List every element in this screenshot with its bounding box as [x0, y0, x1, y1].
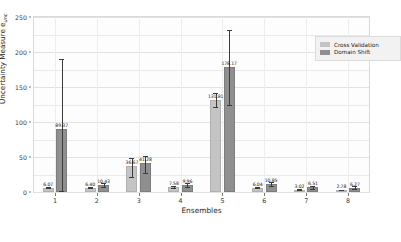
x-axis-tick-mark [222, 193, 223, 196]
error-bar-cap [269, 186, 274, 187]
x-axis-tick-mark [55, 193, 56, 196]
error-bar-cap [339, 190, 344, 191]
error-bar-cap [297, 190, 302, 191]
y-axis-tick-mark [29, 192, 32, 193]
gridline-vertical [181, 17, 182, 192]
bar-value-label: 7.58 [169, 181, 179, 186]
legend-label: Domain Shift [334, 49, 370, 55]
error-bar-cap [227, 30, 232, 31]
gridline-horizontal-minor [34, 70, 369, 71]
y-axis-tick-mark [29, 52, 32, 53]
bar-value-label: 41.28 [139, 157, 152, 162]
bar-value-label: 36.67 [126, 160, 139, 165]
x-axis-ticks: 12345678 [33, 193, 370, 207]
bar-value-label: 6.07 [43, 182, 53, 187]
error-bar-cap [129, 177, 134, 178]
y-axis-tick-label: 0 [23, 189, 27, 196]
gridline-horizontal [34, 122, 369, 123]
error-bar-cap [352, 189, 357, 190]
bar-value-label: 2.78 [336, 184, 346, 189]
gridline-horizontal-minor [34, 175, 369, 176]
x-axis-tick-mark [181, 193, 182, 196]
x-axis-tick-label: 7 [304, 197, 308, 205]
x-axis-tick-mark [348, 193, 349, 196]
x-axis-tick-label: 5 [220, 197, 224, 205]
bar-value-label: 131.81 [208, 94, 223, 99]
gridline-vertical [306, 17, 307, 192]
error-bar-cap [46, 188, 51, 189]
error-bar-cap [310, 189, 315, 190]
error-bar-cap [171, 188, 176, 189]
bar-value-label: 3.02 [295, 184, 305, 189]
x-axis-tick-label: 8 [346, 197, 350, 205]
bar-value-label: 6.40 [85, 182, 95, 187]
bar-value-label: 6.51 [308, 181, 318, 186]
bar-value-label: 9.96 [182, 179, 192, 184]
x-axis-tick-mark [306, 193, 307, 196]
error-bar-cap [101, 187, 106, 188]
legend-swatch-icon [320, 50, 330, 55]
y-axis-tick-label: 200 [15, 49, 27, 56]
x-axis-tick-mark [264, 193, 265, 196]
bar-value-label: 6.27 [350, 182, 360, 187]
x-axis-tick-mark [139, 193, 140, 196]
y-axis-tick-label: 250 [15, 14, 27, 21]
y-axis-tick-mark [29, 87, 32, 88]
bar-value-label: 10.43 [97, 179, 110, 184]
x-axis-title: Ensembles [33, 206, 370, 215]
error-bar [229, 30, 230, 106]
error-bar-cap [227, 105, 232, 106]
error-bar-cap [255, 188, 260, 189]
error-bar-cap [59, 191, 64, 192]
chart-legend: Cross ValidationDomain Shift [315, 36, 401, 61]
bar-value-label: 6.04 [253, 182, 263, 187]
gridline-horizontal [34, 17, 369, 18]
gridline-horizontal [34, 157, 369, 158]
legend-item[interactable]: Domain Shift [320, 49, 396, 55]
y-axis-tick-mark [29, 157, 32, 158]
bar-value-label: 178.17 [221, 61, 236, 66]
bar-cross-validation-5 [210, 100, 221, 192]
error-bar-cap [88, 188, 93, 189]
x-axis-tick-label: 6 [262, 197, 266, 205]
gridline-vertical [264, 17, 265, 192]
y-axis-tick-label: 150 [15, 84, 27, 91]
gridline-horizontal [34, 87, 369, 88]
y-axis-ticks: 050100150200250 [0, 16, 31, 193]
gridline-horizontal-minor [34, 105, 369, 106]
gridline-horizontal-minor [34, 140, 369, 141]
error-bar-cap [59, 59, 64, 60]
legend-label: Cross Validation [334, 42, 379, 48]
gridline-vertical [97, 17, 98, 192]
x-axis-tick-mark [97, 193, 98, 196]
x-axis-tick-label: 2 [95, 197, 99, 205]
x-axis-tick-label: 3 [137, 197, 141, 205]
error-bar-cap [143, 173, 148, 174]
x-axis-tick-label: 4 [179, 197, 183, 205]
plot-area: 6.076.4036.677.58131.816.043.022.7889.37… [33, 16, 370, 193]
bar-value-label: 10.85 [265, 178, 278, 183]
bar-value-label: 89.37 [55, 123, 68, 128]
y-axis-tick-mark [29, 122, 32, 123]
y-axis-tick-label: 50 [19, 154, 27, 161]
y-axis-tick-label: 100 [15, 119, 27, 126]
legend-swatch-icon [320, 42, 330, 47]
legend-item[interactable]: Cross Validation [320, 42, 396, 48]
error-bar-cap [129, 158, 134, 159]
error-bar-cap [213, 107, 218, 108]
y-axis-tick-mark [29, 17, 32, 18]
error-bar-cap [185, 187, 190, 188]
x-axis-tick-label: 1 [53, 197, 57, 205]
